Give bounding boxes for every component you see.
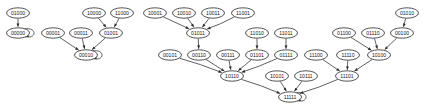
graph-node-01001[interactable]: 01001 [100, 28, 123, 38]
node-label-00111: 00111 [221, 52, 235, 58]
node-label-00011: 00011 [74, 30, 88, 36]
node-label-01001: 01001 [104, 30, 118, 36]
edge-01111-to-10110-arrowhead [242, 70, 246, 73]
graph-node-11101[interactable]: 11101 [336, 71, 359, 81]
node-label-01000: 01000 [11, 10, 25, 16]
node-layer: 0100000000000010001110000110000100100010… [7, 8, 419, 102]
node-label-11001: 11001 [236, 10, 250, 16]
graph-node-10000[interactable]: 10000 [83, 8, 106, 18]
graph-node-01011[interactable]: 01011 [187, 28, 210, 38]
graph-node-00100[interactable]: 00100 [391, 28, 414, 38]
edge-01011-to-00110-arrowhead [197, 45, 200, 48]
graph-node-10100[interactable]: 10100 [368, 50, 391, 60]
edge-10110-to-11111 [241, 79, 280, 93]
node-label-00000: 00000 [11, 30, 25, 36]
edge-01100-to-10100 [351, 37, 371, 50]
edge-01000-to-00000-arrowhead [17, 23, 20, 26]
node-label-01100: 01100 [337, 30, 351, 36]
edge-11011-to-01111-arrowhead [285, 45, 288, 48]
node-label-00010: 00010 [79, 52, 93, 58]
edge-00001-to-00010 [60, 38, 79, 51]
edge-11010-to-01101-arrowhead [256, 45, 259, 48]
graph-node-00011[interactable]: 00011 [70, 28, 93, 38]
edge-11110-to-11101-arrowhead [346, 66, 349, 69]
node-label-10011: 10011 [206, 10, 220, 16]
node-label-01101: 01101 [250, 52, 264, 58]
node-label-10001: 10001 [148, 10, 162, 16]
edge-01111-to-10110 [242, 59, 277, 73]
graph-node-11111[interactable]: 11111 [279, 92, 302, 102]
node-label-10000: 10000 [87, 10, 101, 16]
node-label-11110: 11110 [341, 52, 354, 58]
graph-node-01000[interactable]: 01000 [7, 8, 30, 18]
graph-node-00010[interactable]: 00010 [75, 50, 98, 60]
graph-canvas: 0100000000000010001110000110000100100010… [0, 0, 431, 110]
node-label-11010: 11010 [250, 30, 264, 36]
graph-node-10010[interactable]: 10010 [173, 8, 196, 18]
edge-10001-to-01011 [163, 17, 189, 29]
edge-00110-to-10110-arrowhead [221, 68, 225, 71]
graph-node-01110[interactable]: 01110 [362, 28, 385, 38]
graph-node-10011[interactable]: 10011 [202, 8, 225, 18]
node-label-10101: 10101 [270, 73, 284, 79]
node-label-11100: 11100 [309, 52, 323, 58]
node-label-10100: 10100 [372, 52, 386, 58]
graph-node-00111[interactable]: 00111 [217, 50, 240, 60]
binary-state-transition-graph: 0100000000000010001110000110000100100010… [0, 0, 431, 110]
graph-node-01010[interactable]: 01010 [396, 8, 419, 18]
node-label-00100: 00100 [395, 30, 409, 36]
graph-node-01101[interactable]: 01101 [246, 50, 269, 60]
graph-node-11001[interactable]: 11001 [232, 8, 255, 18]
node-label-00110: 00110 [192, 52, 206, 58]
node-label-01011: 01011 [191, 30, 205, 36]
graph-node-11110[interactable]: 11110 [337, 50, 360, 60]
graph-node-11000[interactable]: 11000 [111, 8, 134, 18]
node-label-10111: 10111 [299, 73, 313, 79]
graph-node-11011[interactable]: 11011 [275, 28, 298, 38]
graph-node-10101[interactable]: 10101 [266, 71, 289, 81]
node-label-01111: 01111 [279, 52, 292, 58]
node-label-11101: 11101 [340, 73, 354, 79]
graph-node-00000[interactable]: 00000 [7, 28, 30, 38]
graph-node-11010[interactable]: 11010 [246, 28, 269, 38]
graph-node-10001[interactable]: 10001 [144, 8, 167, 18]
node-label-11011: 11011 [279, 30, 293, 36]
graph-node-01111[interactable]: 01111 [275, 50, 298, 60]
node-label-11000: 11000 [115, 10, 129, 16]
node-label-00101: 00101 [163, 52, 177, 58]
node-label-10010: 10010 [177, 10, 191, 16]
node-label-01010: 01010 [400, 10, 414, 16]
graph-node-10110[interactable]: 10110 [221, 71, 244, 81]
edge-11001-to-01011 [207, 17, 234, 29]
node-label-01110: 01110 [366, 30, 380, 36]
graph-node-01100[interactable]: 01100 [333, 28, 356, 38]
graph-node-00110[interactable]: 00110 [188, 50, 211, 60]
edge-11001-to-01011-arrowhead [207, 26, 211, 29]
node-label-10110: 10110 [225, 73, 239, 79]
edge-00001-to-00010-arrowhead [75, 47, 79, 50]
edge-10100-to-11101-arrowhead [354, 68, 358, 71]
graph-node-11100[interactable]: 11100 [305, 50, 328, 60]
edge-10010-to-01011-arrowhead [191, 24, 194, 28]
edge-00111-to-10110-arrowhead [229, 66, 232, 70]
node-label-00001: 00001 [46, 30, 60, 36]
edge-11100-to-11101-arrowhead [336, 68, 340, 71]
node-label-11111: 11111 [284, 94, 297, 100]
graph-node-00001[interactable]: 00001 [42, 28, 65, 38]
graph-node-00101[interactable]: 00101 [159, 50, 182, 60]
graph-node-10111[interactable]: 10111 [295, 71, 318, 81]
